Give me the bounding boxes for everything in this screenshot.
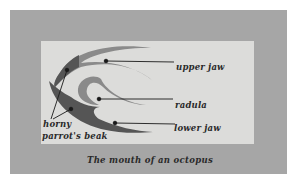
label-upper-jaw: upper jaw <box>176 62 225 72</box>
label-beak-line1: horny <box>43 119 71 129</box>
figure-caption: The mouth of an octopus <box>0 155 300 165</box>
label-beak-line2: parrot's beak <box>42 131 108 141</box>
label-lower-jaw: lower jaw <box>174 123 221 133</box>
label-radula: radula <box>175 100 207 110</box>
octopus-mouth-illustration <box>41 41 254 144</box>
radula-shape <box>78 77 146 105</box>
upper-jaw-shape <box>54 46 153 87</box>
